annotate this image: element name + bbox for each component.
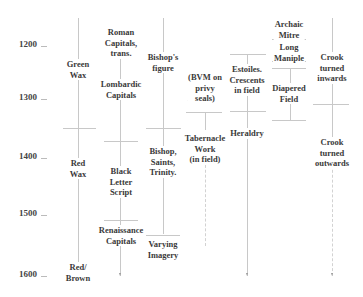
label-roman-capitals: Roman Capitals, trans. (104, 27, 138, 59)
period-divider (146, 235, 180, 236)
timeline-line (78, 18, 79, 276)
label-tabernacle-work: Tabernacle Work (in field) (184, 133, 226, 165)
label-diapered-field: Diapered Field (271, 83, 306, 104)
period-divider (186, 112, 222, 113)
period-divider (313, 104, 349, 105)
label-crook-outwards: Crook turned outwards (314, 137, 350, 169)
label-bishop-saints-trinity: Bishop, Saints, Trinity. (148, 146, 177, 178)
period-divider (146, 128, 181, 129)
period-divider (104, 141, 138, 142)
label-green-wax: Green Wax (66, 59, 91, 80)
year-label-1300: 1300 (19, 92, 37, 102)
timeline-line (163, 18, 164, 234)
timeline-line-dashed (332, 160, 333, 276)
period-divider (272, 120, 306, 121)
period-divider (230, 111, 266, 112)
arrow-down-icon (331, 273, 333, 276)
label-bvm-privy-seals: (BVM on privy seals) (187, 72, 223, 104)
year-label-1200: 1200 (19, 39, 37, 49)
label-heraldry: Heraldry (229, 128, 265, 139)
period-divider (63, 128, 96, 129)
label-estoiles-crescents: Estoiles. Crescents in field (228, 64, 265, 96)
label-lombardic-capitals: Lombardic Capitals (100, 79, 143, 100)
label-varying-imagery: Varying Imagery (147, 239, 180, 260)
year-label-1500: 1500 (19, 208, 37, 218)
arrow-down-icon (119, 273, 121, 276)
label-long-maniple: Long Maniple (273, 42, 305, 63)
year-tick (41, 99, 47, 100)
year-tick (41, 46, 47, 47)
label-bishops-figure: Bishop's figure (147, 52, 180, 73)
label-crook-inwards: Crook turned inwards (316, 52, 347, 84)
label-archaic-mitre: Archaic Mitre (274, 19, 305, 40)
year-label-1400: 1400 (19, 151, 37, 161)
timeline-line-dashed (205, 160, 206, 246)
year-tick (41, 158, 47, 159)
label-renaissance-capitals: Renaissance Capitals (98, 225, 144, 246)
period-divider (230, 54, 266, 55)
label-red-wax: Red Wax (69, 158, 88, 179)
period-divider (104, 220, 138, 221)
period-divider (272, 68, 306, 69)
label-black-letter-script: Black Letter Script (109, 166, 134, 198)
timeline-line (205, 112, 206, 130)
year-tick (41, 215, 47, 216)
label-red-brown: Red/ Brown (65, 262, 91, 283)
year-tick (41, 276, 47, 277)
year-label-1600: 1600 (19, 269, 37, 279)
arrow-down-icon (246, 273, 248, 276)
